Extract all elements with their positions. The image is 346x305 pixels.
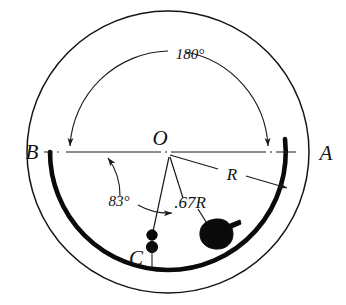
label-radius: R bbox=[226, 165, 238, 184]
label-chord: .67R bbox=[174, 193, 206, 212]
swept-path-arc bbox=[50, 139, 286, 270]
label-center: O bbox=[152, 126, 167, 150]
bob-large-marker bbox=[200, 219, 241, 249]
bob-small-marker bbox=[146, 230, 157, 268]
diagram-canvas: O B A C R .67R 180° 83° bbox=[0, 0, 346, 305]
label-left-point: B bbox=[26, 140, 39, 164]
label-arc-major: 180° bbox=[176, 46, 205, 62]
label-arc-minor: 83° bbox=[109, 193, 130, 209]
label-right-point: A bbox=[318, 141, 333, 165]
angle-arc-180 bbox=[70, 51, 268, 146]
figure-root: O B A C R .67R 180° 83° bbox=[0, 0, 346, 305]
label-bob-point: C bbox=[129, 246, 144, 270]
